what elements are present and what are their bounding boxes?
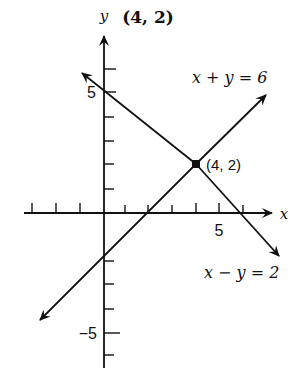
chart: (4, 2) y 5 −5 x bbox=[0, 0, 297, 380]
y-tick-label-neg5: −5 bbox=[79, 325, 97, 342]
line-x-plus-y-eq-6: x + y = 6 bbox=[82, 68, 279, 256]
x-axis-label: x bbox=[280, 205, 289, 223]
intersection-point: (4, 2) bbox=[192, 156, 241, 173]
line2-label: x − y = 2 bbox=[204, 263, 279, 282]
y-ticks bbox=[104, 69, 120, 355]
x-axis: x 5 bbox=[24, 203, 289, 239]
y-axis-label: y bbox=[99, 7, 109, 25]
y-tick-label-5: 5 bbox=[87, 84, 96, 101]
x-ticks bbox=[32, 203, 243, 213]
x-tick-label-5: 5 bbox=[215, 222, 224, 239]
line1-label: x + y = 6 bbox=[192, 68, 267, 87]
chart-title: (4, 2) bbox=[122, 7, 174, 27]
point-label: (4, 2) bbox=[206, 156, 241, 173]
y-axis: y 5 −5 bbox=[79, 7, 120, 368]
